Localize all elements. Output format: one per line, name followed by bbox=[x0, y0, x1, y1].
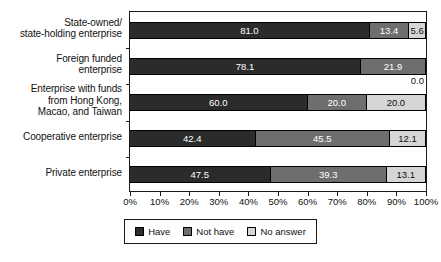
category-axis-labels: State-owned/state-holding enterpriseFore… bbox=[0, 0, 126, 190]
bar-segment-not-have: 21.9 bbox=[361, 58, 426, 75]
bar-segment-no-answer: 13.1 bbox=[387, 166, 426, 183]
bar-row: 42.445.512.1 bbox=[130, 130, 426, 147]
category-label-line: enterprise bbox=[0, 64, 122, 76]
bar-segment-have: 42.4 bbox=[130, 130, 256, 147]
category-label-0: State-owned/state-holding enterprise bbox=[0, 17, 122, 40]
bar-segment-not-have: 39.3 bbox=[271, 166, 387, 183]
x-axis-tick-label: 30% bbox=[209, 196, 228, 207]
y-axis-tick bbox=[126, 48, 130, 49]
bar-value-label: 21.9 bbox=[384, 61, 403, 72]
y-axis-tick bbox=[126, 157, 130, 158]
x-axis-tick-label: 80% bbox=[357, 196, 376, 207]
bar-value-label: 5.6 bbox=[411, 25, 424, 36]
category-label-1: Foreign fundedenterprise bbox=[0, 53, 122, 76]
bar-row: 60.020.020.0 bbox=[130, 94, 426, 111]
legend-label: Not have bbox=[196, 226, 234, 237]
y-axis-tick bbox=[126, 84, 130, 85]
x-axis-tick-label: 20% bbox=[180, 196, 199, 207]
category-label-line: Cooperative enterprise bbox=[0, 131, 122, 143]
bar-value-label: 42.4 bbox=[183, 133, 202, 144]
y-axis-tick bbox=[126, 121, 130, 122]
bar-segment-no-answer: 20.0 bbox=[367, 94, 426, 111]
x-axis-tick-label: 0% bbox=[123, 196, 137, 207]
bar-segment-have: 60.0 bbox=[130, 94, 308, 111]
bar-value-label: 12.1 bbox=[398, 133, 417, 144]
category-label-line: Macao, and Taiwan bbox=[0, 106, 122, 118]
bar-value-label: 13.1 bbox=[397, 169, 416, 180]
bar-value-label: 60.0 bbox=[209, 97, 228, 108]
bar-value-label: 47.5 bbox=[191, 169, 210, 180]
bar-segment-not-have: 45.5 bbox=[256, 130, 391, 147]
bar-segment-have: 78.1 bbox=[130, 58, 361, 75]
legend-label: Have bbox=[148, 226, 170, 237]
x-axis-tick-labels: 0%10%20%30%40%50%60%70%80%90%100% bbox=[0, 196, 441, 210]
category-label-line: State-owned/ bbox=[0, 17, 122, 29]
x-axis-tick-label: 70% bbox=[328, 196, 347, 207]
x-axis-tick-label: 10% bbox=[150, 196, 169, 207]
bar-row: 78.121.9 bbox=[130, 58, 426, 75]
x-axis-tick-label: 40% bbox=[239, 196, 258, 207]
legend-swatch-icon bbox=[135, 227, 144, 236]
bar-value-label: 20.0 bbox=[327, 97, 346, 108]
category-label-line: state-holding enterprise bbox=[0, 28, 122, 40]
chart-legend: HaveNot haveNo answer bbox=[124, 219, 317, 244]
bar-row: 81.013.45.6 bbox=[130, 22, 426, 39]
legend-swatch-icon bbox=[183, 227, 192, 236]
category-label-line: Foreign funded bbox=[0, 53, 122, 65]
bar-value-label: 45.5 bbox=[313, 133, 332, 144]
category-label-4: Private enterprise bbox=[0, 167, 122, 179]
category-label-3: Cooperative enterprise bbox=[0, 131, 122, 143]
category-label-line: from Hong Kong, bbox=[0, 95, 122, 107]
bar-segment-not-have: 20.0 bbox=[308, 94, 367, 111]
bar-value-label: 20.0 bbox=[387, 97, 406, 108]
category-label-line: Private enterprise bbox=[0, 167, 122, 179]
bar-value-label: 81.0 bbox=[240, 25, 259, 36]
x-axis-tick-label: 50% bbox=[268, 196, 287, 207]
x-axis-tick-label: 90% bbox=[387, 196, 406, 207]
legend-swatch-icon bbox=[247, 227, 256, 236]
bar-segment-have: 47.5 bbox=[130, 166, 271, 183]
category-label-line: Enterprise with funds bbox=[0, 83, 122, 95]
stacked-bar-chart: State-owned/state-holding enterpriseFore… bbox=[0, 0, 441, 262]
plot-area: 81.013.45.60.078.121.960.020.020.042.445… bbox=[129, 11, 427, 192]
category-label-2: Enterprise with fundsfrom Hong Kong,Maca… bbox=[0, 83, 122, 118]
bar-value-label: 13.4 bbox=[380, 25, 399, 36]
legend-label: No answer bbox=[260, 226, 305, 237]
bar-segment-no-answer: 12.1 bbox=[390, 130, 426, 147]
legend-item-have: Have bbox=[135, 226, 170, 237]
bar-segment-no-answer: 5.6 bbox=[409, 22, 426, 39]
bar-segment-have: 81.0 bbox=[130, 22, 370, 39]
bar-value-label: 39.3 bbox=[319, 169, 338, 180]
legend-item-not-have: Not have bbox=[183, 226, 234, 237]
x-axis-tick-label: 60% bbox=[298, 196, 317, 207]
legend-item-no-answer: No answer bbox=[247, 226, 305, 237]
bar-row: 47.539.313.1 bbox=[130, 166, 426, 183]
bar-value-label-zero: 0.0 bbox=[411, 75, 424, 86]
bar-segment-not-have: 13.4 bbox=[370, 22, 410, 39]
bar-value-label: 78.1 bbox=[236, 61, 255, 72]
x-axis-tick-label: 100% bbox=[414, 196, 438, 207]
